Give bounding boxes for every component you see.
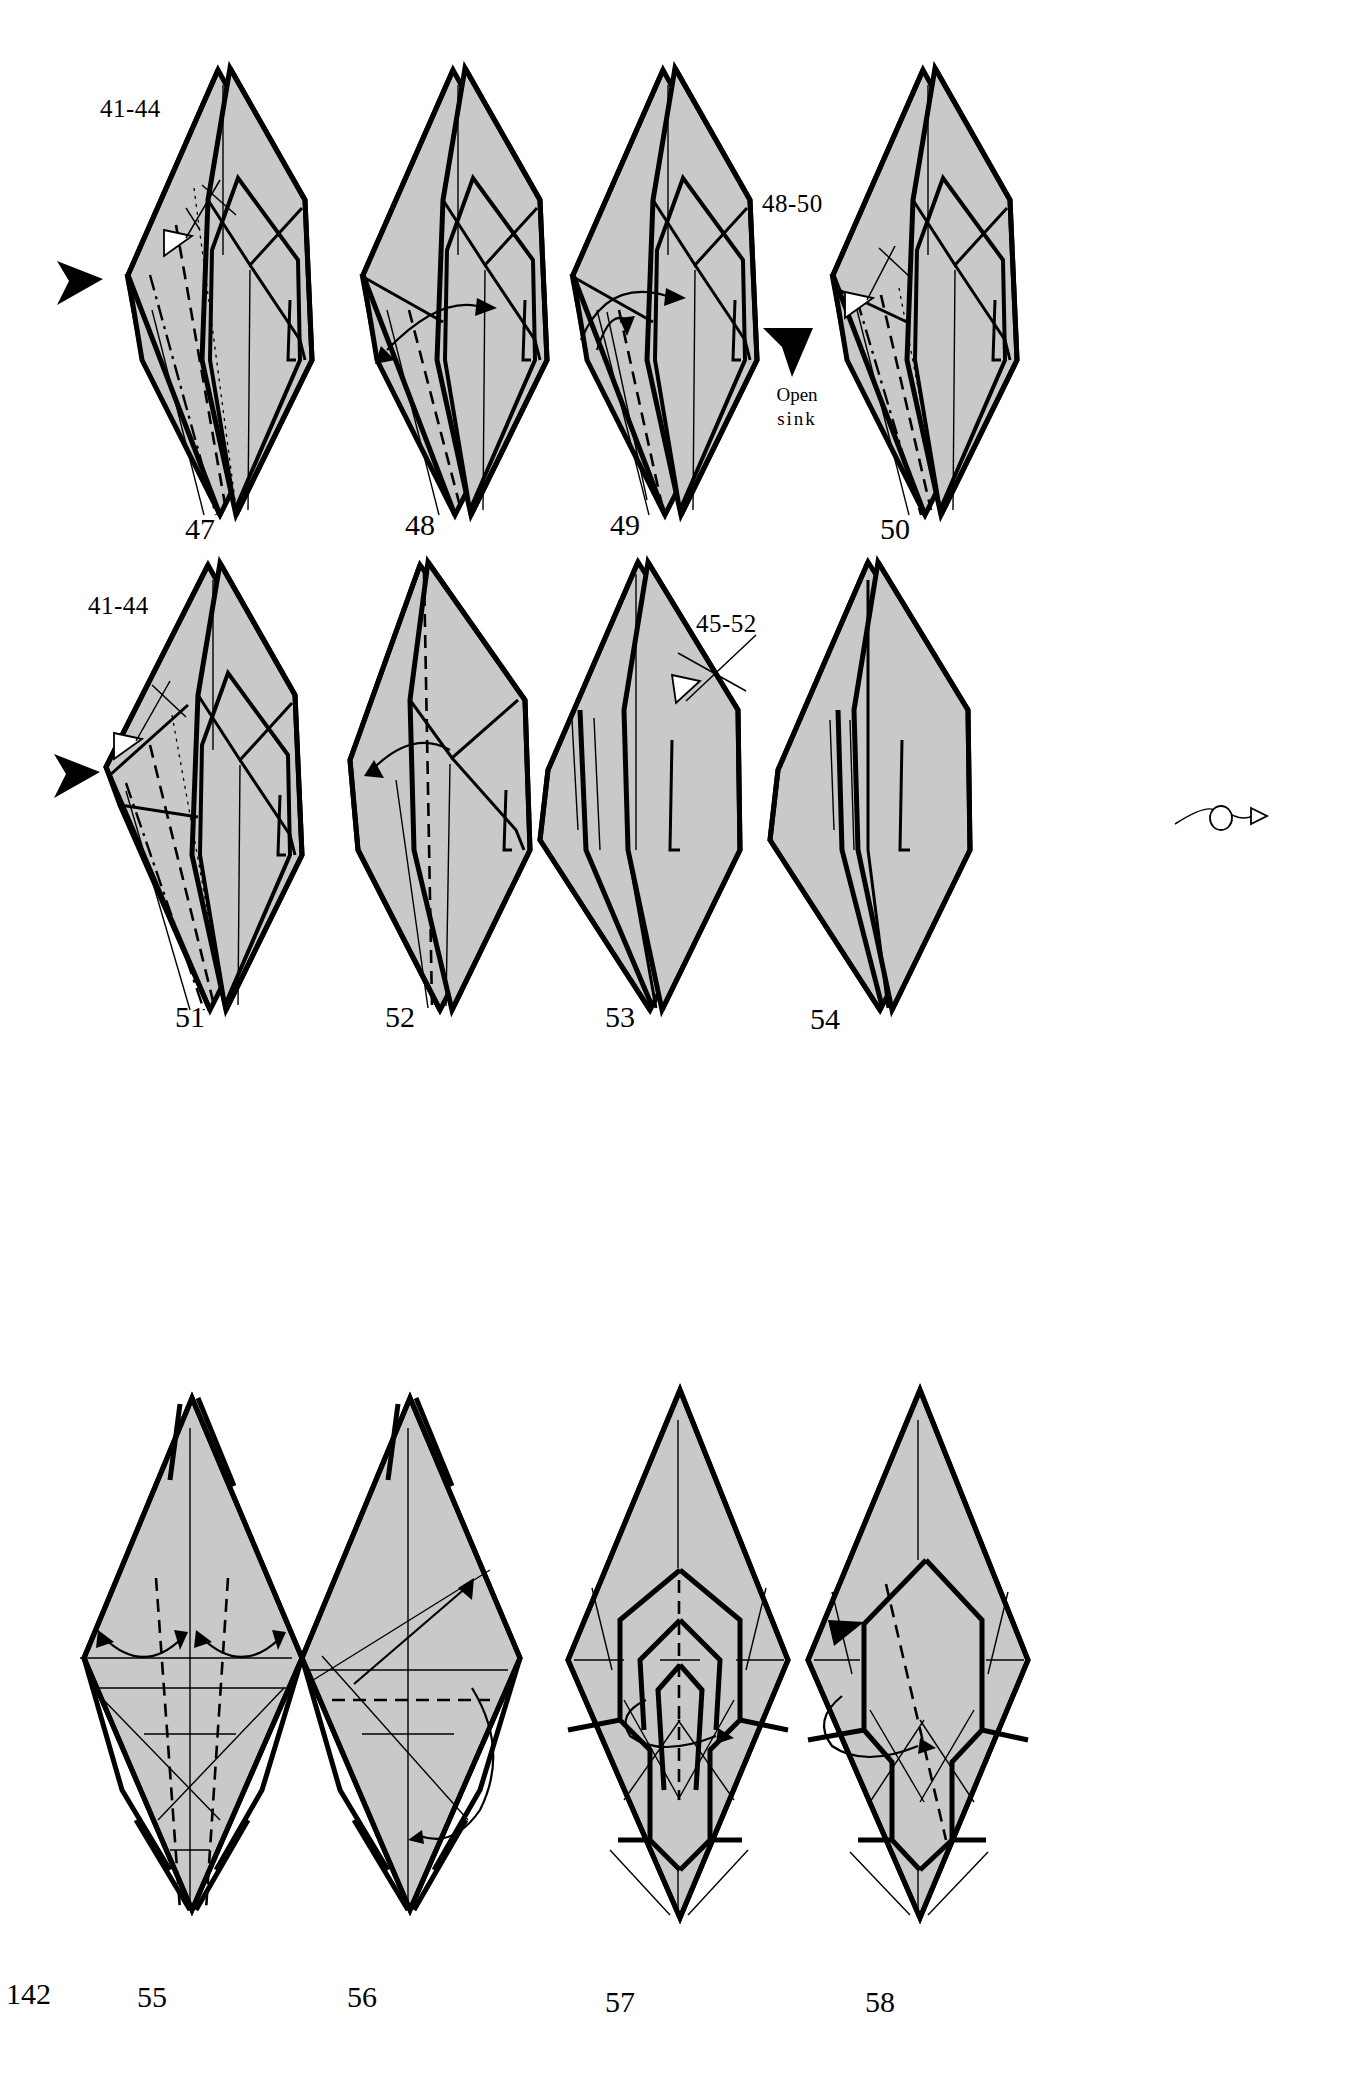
step-number-48: 48	[380, 508, 460, 542]
figure-step-51	[80, 555, 340, 1025]
step-number-53: 53	[580, 1000, 660, 1034]
procedure-label-line1: Open	[752, 383, 842, 407]
figure-step-50	[795, 60, 1055, 530]
figure-step-49	[535, 60, 795, 530]
step-number-51: 51	[150, 1000, 230, 1034]
figure-step-47	[90, 60, 350, 530]
step-number-52: 52	[360, 1000, 440, 1034]
origami-diagram-page: 41-44 47 48	[0, 0, 1364, 2100]
step-number-47: 47	[160, 512, 240, 546]
figure-step-58	[760, 1370, 1080, 1940]
procedure-label-open-sink: Open sink	[752, 383, 842, 431]
black-solid-triangle-pointer-step47	[55, 255, 110, 310]
procedure-label-line2: sink	[752, 407, 842, 431]
reference-label-41-44-step51: 41-44	[88, 592, 149, 620]
figure-step-54	[750, 550, 1010, 1025]
step-number-57: 57	[580, 1985, 660, 2019]
step-number-50: 50	[855, 512, 935, 546]
step-number-58: 58	[840, 1985, 920, 2019]
step-number-56: 56	[322, 1980, 402, 2014]
step-number-54: 54	[785, 1002, 865, 1036]
reference-label-41-44-step47: 41-44	[100, 95, 161, 123]
turn-over-symbol-step54	[1165, 778, 1275, 848]
black-solid-triangle-pointer-step51	[52, 748, 107, 803]
page-number: 142	[6, 1977, 51, 2011]
step-number-49: 49	[585, 508, 665, 542]
step-number-55: 55	[112, 1980, 192, 2014]
reference-label-48-50-step50: 48-50	[762, 190, 823, 218]
black-solid-triangle-pointer-step50	[760, 325, 820, 385]
